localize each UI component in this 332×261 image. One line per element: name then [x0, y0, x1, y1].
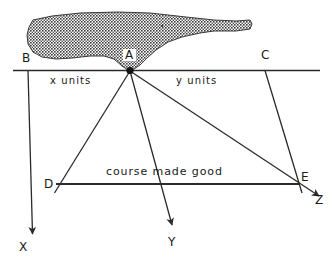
- label-course-made-good: course made good: [106, 166, 223, 177]
- navigation-diagram: A B C D E X Y Z x units y units course m…: [0, 0, 332, 261]
- label-x-units: x units: [50, 76, 91, 86]
- diagram-canvas: [0, 0, 332, 261]
- point-label-d: D: [44, 178, 54, 190]
- point-a-marker: [126, 67, 133, 74]
- point-label-c: C: [261, 49, 270, 61]
- axis-label-z: Z: [315, 194, 324, 206]
- point-label-a: A: [123, 49, 136, 61]
- label-y-units: y units: [176, 76, 217, 86]
- axis-label-x: X: [19, 241, 28, 253]
- line-c-to-e: [265, 71, 302, 194]
- point-label-e: E: [301, 171, 309, 183]
- point-label-b: B: [22, 52, 31, 64]
- axis-label-y: Y: [168, 236, 176, 248]
- landmass-shape: [27, 12, 252, 70]
- line-b-to-x: [28, 71, 33, 235]
